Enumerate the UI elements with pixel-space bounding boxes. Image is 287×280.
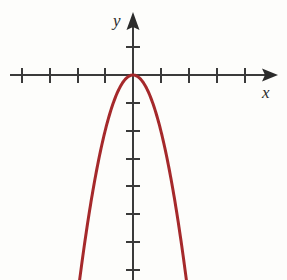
graph-canvas	[0, 0, 287, 280]
y-axis-label: y	[113, 12, 121, 29]
parabola-figure: y x	[0, 0, 287, 280]
x-axis-label: x	[262, 84, 270, 101]
